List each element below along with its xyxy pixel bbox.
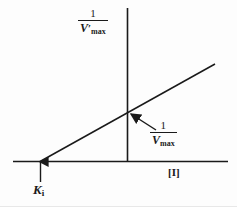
fraction-denominator: Vmax (150, 133, 177, 146)
fraction-denominator: V′max (78, 21, 108, 34)
fraction-one-over-vmax: 1 Vmax (150, 120, 177, 146)
y-intercept-label: 1 Vmax (150, 120, 177, 146)
denominator-base: V (152, 133, 160, 147)
fraction-one-over-vmax-prime: 1 V′max (78, 8, 108, 34)
denominator-base: V (80, 21, 88, 35)
x-axis-label: [I] (168, 167, 180, 178)
dixon-plot-figure: 1 V′max 1 Vmax Ki [I] (0, 0, 237, 207)
x-intercept-label: Ki (33, 183, 44, 196)
ki-base: K (33, 182, 42, 197)
denominator-subscript: max (91, 27, 106, 36)
plot-canvas (0, 0, 237, 207)
denominator-subscript: max (160, 139, 175, 148)
y-axis-label: 1 V′max (78, 8, 108, 34)
fraction-numerator: 1 (78, 8, 108, 20)
ki-subscript: i (42, 188, 45, 198)
fraction-numerator: 1 (150, 120, 177, 132)
